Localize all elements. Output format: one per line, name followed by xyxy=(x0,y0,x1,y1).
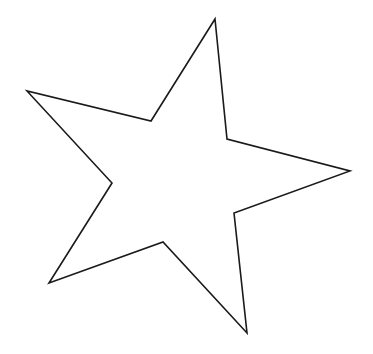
drawing-canvas xyxy=(0,0,373,354)
